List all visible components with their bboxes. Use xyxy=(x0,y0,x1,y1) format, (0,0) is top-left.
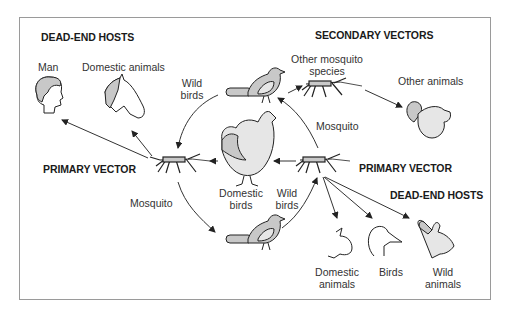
arrow-to-man xyxy=(62,120,148,158)
label-other-mosquito-line1: Other mosquito xyxy=(291,53,363,65)
mosquito-icon-secondary xyxy=(302,78,362,97)
label-man: Man xyxy=(38,61,58,73)
arc-rightmosquito-to-topbird xyxy=(278,98,318,148)
heading-primary-vector-left: PRIMARY VECTOR xyxy=(43,163,136,175)
arc-leftmosquito-to-bottombird xyxy=(178,182,215,232)
heading-dead-end-hosts-bottom: DEAD-END HOSTS xyxy=(390,189,483,201)
label-mosquito-right: Mosquito xyxy=(316,120,359,132)
label-domestic-animals-top: Domestic animals xyxy=(82,61,165,73)
heading-dead-end-hosts-top: DEAD-END HOSTS xyxy=(41,31,134,43)
label-domestic-birds-line2: birds xyxy=(230,199,253,211)
heading-secondary-vectors: SECONDARY VECTORS xyxy=(315,29,433,41)
label-domestic-birds-line1: Domestic xyxy=(219,187,263,199)
arrow-to-pig xyxy=(323,177,337,218)
rabbit-head-icon xyxy=(418,220,454,258)
label-domestic-animals-bottom-line1: Domestic xyxy=(315,266,359,278)
label-birds: Birds xyxy=(379,266,403,278)
heading-primary-vector-right: PRIMARY VECTOR xyxy=(359,162,452,174)
chicken-icon xyxy=(222,111,276,186)
label-other-animals: Other animals xyxy=(398,75,463,87)
label-wild-birds-bottom-line1: Wild xyxy=(277,187,297,199)
mosquito-icon-right xyxy=(296,154,350,173)
pig-head-icon xyxy=(328,228,352,258)
mosquito-icon-left xyxy=(150,154,210,173)
label-wild-birds-top-line1: Wild xyxy=(182,77,202,89)
arrow-to-duck xyxy=(324,177,372,218)
squirrel-icon xyxy=(407,102,451,138)
horse-head-icon xyxy=(105,74,144,118)
label-mosquito-left: Mosquito xyxy=(130,197,173,209)
label-wild-animals-line2: animals xyxy=(425,278,461,290)
label-other-mosquito-line2: species xyxy=(309,65,345,77)
duck-head-icon xyxy=(368,226,402,256)
label-wild-birds-bottom-line2: birds xyxy=(276,199,299,211)
arrow-othermosquito-to-squirrel xyxy=(365,90,402,107)
label-wild-animals-line1: Wild xyxy=(433,266,453,278)
label-domestic-animals-bottom-line2: animals xyxy=(319,278,355,290)
wild-bird-icon-bottom xyxy=(226,215,285,250)
arc-wildbird-to-leftmosquito xyxy=(178,95,218,148)
wild-bird-icon-top xyxy=(226,68,285,103)
label-wild-birds-top-line2: birds xyxy=(181,89,204,101)
human-head-icon xyxy=(36,77,63,113)
arrow-topbird-to-othermosquito xyxy=(288,86,302,93)
